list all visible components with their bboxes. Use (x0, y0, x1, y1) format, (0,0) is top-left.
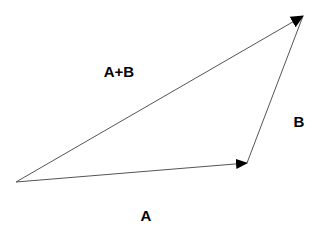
label-a: A (141, 208, 152, 223)
vector-diagram-canvas (0, 0, 323, 233)
vector-a-arrow (16, 163, 247, 182)
vector-b-arrow (247, 16, 303, 163)
label-sum: A+B (104, 64, 134, 79)
label-b: B (294, 114, 305, 129)
vector-sum-arrow (16, 16, 303, 182)
